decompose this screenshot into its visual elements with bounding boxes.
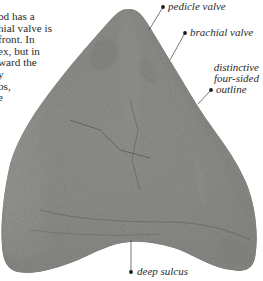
book-page: od has a hial valve is front. In ex, but… — [0, 0, 263, 281]
pedicle-valve-dot — [161, 5, 165, 9]
outline-leader-line — [198, 90, 211, 104]
outline-dot — [209, 88, 213, 92]
brachial-valve-dot — [183, 31, 187, 35]
brachial-valve-leader-line — [170, 33, 185, 60]
deep-sulcus-dot — [129, 270, 133, 274]
pedicle-valve-leader-line — [149, 7, 163, 30]
label-deep-sulcus: deep sulcus — [137, 266, 188, 277]
annotation-leaders — [0, 0, 263, 281]
label-outline-line-3: outline — [216, 84, 247, 95]
label-brachial-valve: brachial valve — [190, 27, 253, 38]
label-pedicle-valve: pedicle valve — [168, 1, 226, 12]
